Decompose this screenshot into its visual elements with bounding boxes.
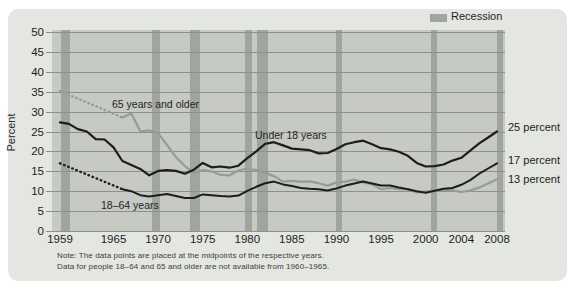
y-tick-label: 35 — [31, 86, 44, 98]
x-tick-label: 2004 — [449, 233, 475, 245]
x-tick-label: 1965 — [101, 233, 127, 245]
x-tick-label: 2008 — [484, 233, 510, 245]
y-tick-label: 0 — [38, 225, 44, 237]
y-tick-label: 40 — [31, 66, 44, 78]
y-tick-label: 45 — [31, 46, 44, 58]
series-label-65-and-older: 65 years and older — [112, 98, 199, 110]
x-tick-label: 1995 — [368, 233, 394, 245]
note-line-1: Note: The data points are placed at the … — [57, 251, 324, 260]
recession-band — [497, 30, 503, 231]
series-label-under-18: Under 18 years — [255, 129, 327, 141]
x-tick-label: 1959 — [47, 233, 73, 245]
recession-band — [245, 30, 252, 231]
y-tick-label: 50 — [31, 26, 44, 38]
x-tick-label: 1980 — [234, 233, 260, 245]
y-tick-label: 20 — [31, 145, 44, 157]
recession-band — [431, 30, 437, 231]
x-tick-label: 1985 — [279, 233, 305, 245]
recession-legend-swatch — [430, 14, 447, 22]
recession-legend-label: Recession — [451, 10, 502, 22]
note-line-2: Data for people 18–64 and 65 and older a… — [57, 262, 329, 271]
x-tick-label: 1990 — [324, 233, 350, 245]
y-axis-title: Percent — [5, 110, 18, 156]
y-tick-label: 15 — [31, 165, 44, 177]
x-tick-label: 1975 — [190, 233, 216, 245]
y-tick-label: 10 — [31, 185, 44, 197]
x-tick-label: 1970 — [145, 233, 171, 245]
y-tick-label: 5 — [38, 205, 44, 217]
y-tick-label: 30 — [31, 106, 44, 118]
recession-band — [190, 30, 200, 231]
end-value-label-65-and-older: 13 percent — [508, 173, 560, 185]
x-tick-label: 2000 — [413, 233, 439, 245]
poverty-rate-line-chart: 0510152025303540455019591965197019751980… — [0, 0, 574, 289]
y-tick-label: 25 — [31, 126, 44, 138]
recession-band — [61, 30, 69, 231]
recession-band — [336, 30, 341, 231]
end-value-label-under-18: 25 percent — [508, 121, 560, 133]
series-label-18-64: 18–64 years — [101, 199, 159, 211]
end-value-label-18-64: 17 percent — [508, 154, 560, 166]
